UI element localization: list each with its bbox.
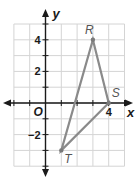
- y-tick-label: −2: [28, 129, 41, 141]
- vertex-label-s: S: [112, 86, 120, 100]
- vertex-label-r: R: [85, 23, 94, 37]
- vertex-label-t: T: [64, 152, 73, 166]
- x-tick-label: 4: [106, 106, 113, 118]
- y-axis-down-arrow-icon: [42, 169, 49, 177]
- vertex-point-r: [91, 38, 95, 42]
- coordinate-plane: 442−2 x y O RST: [0, 0, 136, 183]
- grid: [14, 24, 125, 166]
- x-axis-left-arrow-icon: [3, 100, 11, 107]
- y-axis-up-arrow-icon: [42, 9, 49, 17]
- y-tick-label: 2: [34, 65, 40, 77]
- triangle-rst: RST: [59, 23, 120, 167]
- tick-marks: [14, 24, 125, 166]
- y-tick-label: 4: [34, 34, 41, 46]
- vertex-point-t: [59, 148, 63, 152]
- vertex-point-s: [107, 101, 111, 105]
- x-axis-label: x: [126, 105, 135, 120]
- origin-label: O: [34, 105, 44, 119]
- y-axis-label: y: [52, 6, 61, 21]
- triangle-edges: [61, 40, 108, 151]
